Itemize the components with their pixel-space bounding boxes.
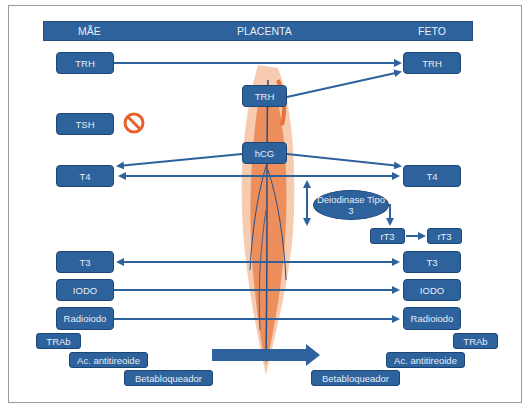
rt3-right-box: rT3 xyxy=(427,228,462,244)
deiodinase-ellipse: Deiodinase Tipo 3 xyxy=(313,190,389,220)
feto-trab-box: TRAb xyxy=(453,333,498,349)
mae-betabloqueador-box: Betabloqueador xyxy=(124,370,213,386)
arrow-hcg-feto xyxy=(287,154,400,166)
feto-trh-box: TRH xyxy=(403,52,461,74)
placenta-trh-box: TRH xyxy=(242,85,287,107)
rt3-left-box: rT3 xyxy=(370,228,405,244)
mae-tsh-box: TSH xyxy=(56,113,114,135)
feto-iodo-box: IODO xyxy=(403,279,461,301)
mae-t3-box: T3 xyxy=(56,251,114,273)
feto-t3-box: T3 xyxy=(403,251,461,273)
mae-iodo-box: IODO xyxy=(56,279,114,301)
arrow-trh-placenta-feto xyxy=(287,72,400,97)
mae-trh-box: TRH xyxy=(56,52,114,74)
arrow-block-transfer xyxy=(212,344,320,366)
mae-trab-box: TRAb xyxy=(36,333,81,349)
mae-radioiodo-box: Radioiodo xyxy=(56,307,114,330)
prohibited-icon xyxy=(125,114,143,132)
feto-betabloqueador-box: Betabloqueador xyxy=(311,370,400,386)
feto-radioiodo-box: Radioiodo xyxy=(403,307,461,330)
hcg-box: hCG xyxy=(242,142,287,164)
arrow-hcg-mae xyxy=(118,154,242,166)
feto-ac-antitireoide-box: Ac. antitireoide xyxy=(386,352,465,368)
mae-t4-box: T4 xyxy=(56,165,114,187)
feto-t4-box: T4 xyxy=(403,165,461,187)
mae-ac-antitireoide-box: Ac. antitireoide xyxy=(69,352,148,368)
